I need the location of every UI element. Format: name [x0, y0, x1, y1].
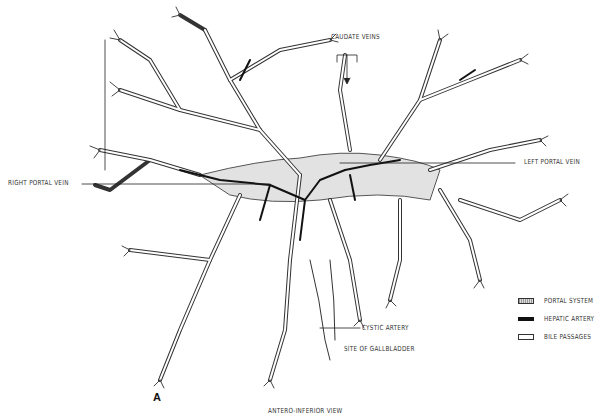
- legend-label: BILE PASSAGES: [544, 333, 591, 341]
- legend-item-portal-system: PORTAL SYSTEM: [518, 297, 599, 305]
- label-left-portal-vein: LEFT PORTAL VEIN: [524, 158, 580, 166]
- legend-label: PORTAL SYSTEM: [544, 297, 593, 305]
- legend-item-bile-passages: BILE PASSAGES: [518, 333, 596, 341]
- hepatic-artery-swatch-icon: [518, 317, 534, 321]
- panel-letter: A: [153, 391, 161, 403]
- label-caudate-veins: CAUDATE VEINS: [331, 33, 380, 41]
- label-site-of-gallbladder: SITE OF GALLBLADDER: [344, 345, 415, 353]
- liver-vascular-diagram: CAUDATE VEINS LEFT PORTAL VEIN RIGHT POR…: [0, 0, 616, 419]
- label-cystic-artery: CYSTIC ARTERY: [362, 324, 409, 332]
- legend-label: HEPATIC ARTERY: [544, 315, 594, 323]
- bile-passages-swatch-icon: [518, 334, 534, 340]
- portal-system-swatch-icon: [518, 298, 534, 304]
- legend-item-hepatic-artery: HEPATIC ARTERY: [518, 315, 600, 323]
- label-right-portal-vein: RIGHT PORTAL VEIN: [8, 179, 69, 187]
- vascular-tree-illustration: [0, 0, 616, 419]
- view-caption: ANTERO-INFERIOR VIEW: [268, 407, 342, 415]
